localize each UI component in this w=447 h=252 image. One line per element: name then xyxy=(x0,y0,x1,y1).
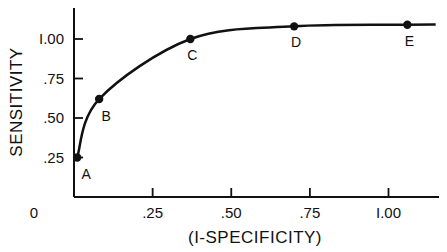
roc-curve xyxy=(77,24,436,157)
point-label: A xyxy=(81,166,91,182)
x-axis-title: (I-SPECIFICITY) xyxy=(188,228,322,247)
data-point-e xyxy=(403,21,411,29)
x-tick-label: 0 xyxy=(30,204,38,221)
point-label: D xyxy=(291,34,301,50)
data-point-c xyxy=(186,35,194,43)
point-label: C xyxy=(187,47,197,63)
data-point-b xyxy=(95,95,103,103)
chart-canvas: 0.25.50.75I.00 .25.50.75I.00 ABCDE (I-SP… xyxy=(0,0,447,252)
roc-chart: 0.25.50.75I.00 .25.50.75I.00 ABCDE (I-SP… xyxy=(0,0,447,252)
y-ticks: .25.50.75I.00 xyxy=(39,30,83,166)
x-ticks: 0.25.50.75I.00 xyxy=(30,188,401,221)
x-tick-label: .25 xyxy=(142,204,163,221)
point-label: E xyxy=(405,33,414,49)
y-tick-label: I.00 xyxy=(39,30,64,47)
data-points: ABCDE xyxy=(73,21,414,182)
y-tick-label: .50 xyxy=(43,109,64,126)
x-tick-label: .50 xyxy=(221,204,242,221)
point-label: B xyxy=(101,108,110,124)
axes xyxy=(74,8,439,197)
data-point-d xyxy=(290,22,298,30)
y-tick-label: .75 xyxy=(43,70,64,87)
y-axis-title: SENSITIVITY xyxy=(7,47,26,156)
data-point-a xyxy=(73,153,81,161)
x-tick-label: .75 xyxy=(299,204,320,221)
x-tick-label: I.00 xyxy=(376,204,401,221)
y-tick-label: .25 xyxy=(43,149,64,166)
